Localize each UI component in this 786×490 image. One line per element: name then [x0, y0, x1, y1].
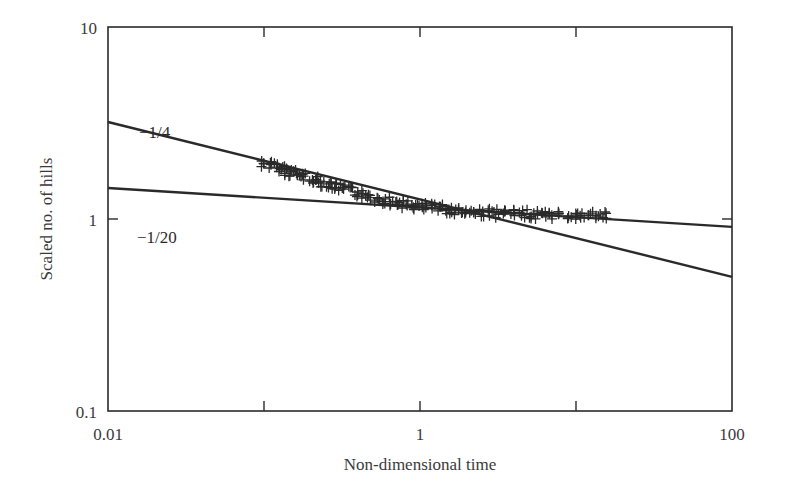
- x-tick-label: 0.01: [93, 425, 123, 444]
- y-tick-label: 0.1: [76, 403, 97, 422]
- fit-line: [108, 122, 732, 277]
- plus-marker: [600, 207, 610, 217]
- x-tick-label: 100: [719, 425, 745, 444]
- plot-frame: [108, 27, 732, 411]
- y-axis-title: Scaled no. of hills: [37, 158, 56, 281]
- axis-ticks: [108, 27, 732, 411]
- plus-marker: [553, 209, 563, 219]
- data-points: [256, 156, 611, 224]
- plot-border: [108, 27, 732, 411]
- x-axis-title: Non-dimensional time: [344, 455, 497, 474]
- power-law-fit-lines: [108, 122, 732, 277]
- y-tick-label: 1: [89, 211, 98, 230]
- x-tick-label: 1: [416, 425, 425, 444]
- slope-label: −1/20: [137, 228, 177, 247]
- y-tick-label: 10: [80, 19, 97, 38]
- log-log-chart: 0.0111000.1110 −1/4−1/20 Non-dimensional…: [0, 0, 786, 490]
- slope-annotations: −1/4−1/20: [137, 123, 177, 247]
- slope-label: −1/4: [139, 123, 171, 142]
